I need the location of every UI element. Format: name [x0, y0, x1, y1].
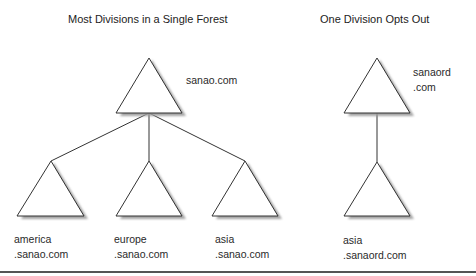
left-diagram-title: Most Divisions in a Single Forest	[68, 13, 228, 25]
label-asia: asia .sanao.com	[215, 232, 269, 262]
left-tree-connectors	[51, 113, 245, 161]
label-america: america .sanao.com	[14, 232, 68, 262]
label-line-2: .sanao.com	[215, 247, 269, 262]
label-line-1: asia	[215, 232, 269, 247]
label-line-2: .sanao.com	[114, 247, 168, 262]
connector-america	[51, 113, 149, 161]
domain-triangle-sanaord-root	[344, 58, 410, 113]
label-sanaord-asia: asia .sanaord.com	[343, 233, 407, 263]
label-sanaord-root: sanaord .com	[413, 65, 451, 95]
label-europe: europe .sanao.com	[114, 232, 168, 262]
label-sanao-root: sanao.com	[186, 73, 237, 88]
label-line-1: america	[14, 232, 68, 247]
label-line-1: sanaord	[413, 65, 451, 80]
label-line-2: .sanao.com	[14, 247, 68, 262]
bottom-divider	[0, 271, 476, 273]
label-line-1: europe	[114, 232, 168, 247]
label-line-1: asia	[343, 233, 407, 248]
label-line-2: .sanaord.com	[343, 248, 407, 263]
domain-triangle-europe	[116, 161, 182, 216]
domain-triangle-america	[17, 161, 84, 216]
right-diagram-title: One Division Opts Out	[320, 13, 429, 25]
connector-asia	[149, 113, 245, 161]
label-line: sanao.com	[186, 73, 237, 88]
domain-triangle-sanaord-asia	[344, 162, 410, 216]
domain-triangle-asia	[212, 161, 278, 216]
label-line-2: .com	[413, 80, 451, 95]
domain-triangle-sanao-root	[116, 58, 182, 113]
